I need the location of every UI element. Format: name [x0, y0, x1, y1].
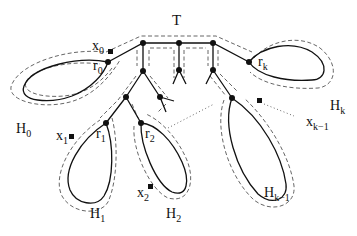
- node-r2: [138, 120, 144, 126]
- dotted-connector-left: [168, 104, 214, 128]
- tree-loops-diagram: T x0 r0 H0 x1 r1 H1 r2 x2 H2 xk−1 Hk−1 r…: [0, 0, 357, 236]
- label-H2: H2: [166, 206, 181, 224]
- label-x0: x0: [92, 38, 104, 56]
- label-x1: x1: [56, 128, 68, 146]
- dotted-connector-right: [264, 104, 294, 116]
- point-x0: [108, 49, 113, 54]
- point-x2: [148, 184, 153, 189]
- label-T: T: [172, 12, 181, 28]
- solid-loops: [23, 46, 324, 203]
- loop-Hk-1: [229, 98, 286, 200]
- label-x2: x2: [137, 185, 149, 203]
- point-x1: [69, 134, 74, 139]
- point-xk-1: [257, 98, 262, 103]
- label-rk: rk: [258, 54, 268, 72]
- label-H0: H0: [16, 121, 31, 139]
- label-xk-1: xk−1: [306, 114, 329, 132]
- node-r1: [103, 120, 109, 126]
- node-rk: [246, 59, 252, 65]
- label-r1: r1: [96, 126, 106, 144]
- label-Hk: Hk: [330, 98, 345, 116]
- label-H1: H1: [90, 206, 105, 224]
- tree-edges: [106, 43, 249, 123]
- dashed-traversal-contour: [11, 36, 333, 211]
- node-r0: [105, 59, 111, 65]
- label-r2: r2: [145, 126, 155, 144]
